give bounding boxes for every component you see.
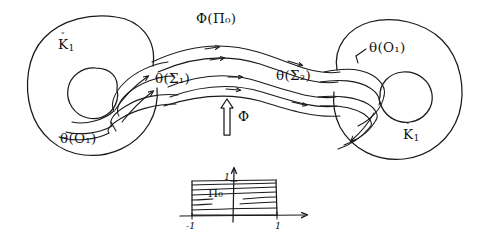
- left-spiral-lower: [111, 94, 178, 126]
- label-phi-arrow: Φ: [238, 110, 249, 124]
- label-theta-sigma-1: θ(Σ₁): [155, 72, 190, 86]
- band-arrow-4: [226, 89, 239, 90]
- inset-fill-line: [243, 197, 276, 199]
- inset-fill-line: [240, 202, 276, 204]
- figure-canvas: Φ(Π₀) θ(Σ₁) θ(Σ₂) θ(O₁) θ(O₁) ˇK1 ˇK1 Φ …: [0, 0, 491, 247]
- inset-fill-line: [192, 204, 212, 205]
- left-flow-arrow-2: [122, 92, 152, 122]
- inset-fill-line: [192, 208, 277, 210]
- label-theta-o-left: θ(O₁): [60, 132, 97, 146]
- left-spiral-tail-a: [72, 111, 114, 123]
- band-line-bottom: [164, 96, 340, 116]
- phi-direction-arrow: [221, 99, 233, 135]
- k-left-subscript: 1: [68, 42, 74, 53]
- label-k-check-left: ˇK1: [58, 38, 75, 52]
- inset-y-axis: [233, 170, 234, 222]
- band-line-top: [152, 46, 340, 73]
- k-left-glyph: ˇK: [58, 38, 68, 52]
- right-inner-hole: [379, 72, 432, 122]
- phi-arrow-outline: [221, 99, 233, 135]
- band-arrow-1: [205, 47, 218, 49]
- label-inset-pi-zero: Π₀: [208, 188, 223, 200]
- label-k-check-right: ˇK1: [403, 128, 420, 142]
- leader-right-theta-o-tick: [356, 56, 358, 63]
- caron-accent-left: ˇ: [61, 32, 66, 44]
- label-inset-x-minus-one: -1: [186, 221, 195, 231]
- left-flow-arrow-1: [115, 77, 147, 110]
- left-inner-hole: [68, 68, 118, 119]
- label-theta-sigma-2: θ(Σ₂): [276, 69, 311, 83]
- label-inset-y-one: 1: [224, 172, 230, 182]
- label-phi-pi-zero: Φ(Π₀): [196, 12, 236, 26]
- k-right-glyph: ˇK: [403, 128, 413, 142]
- right-spiral-upper-2: [320, 80, 380, 105]
- label-theta-o-right: θ(O₁): [369, 41, 406, 55]
- left-spiral-lower-2: [108, 104, 176, 133]
- inset-diagram-group: [180, 170, 305, 222]
- label-inset-x-plus-one: 1: [275, 221, 281, 231]
- leader-right-theta-o: [356, 49, 366, 56]
- caron-accent-right: ˇ: [406, 122, 411, 134]
- k-right-subscript: 1: [413, 132, 419, 143]
